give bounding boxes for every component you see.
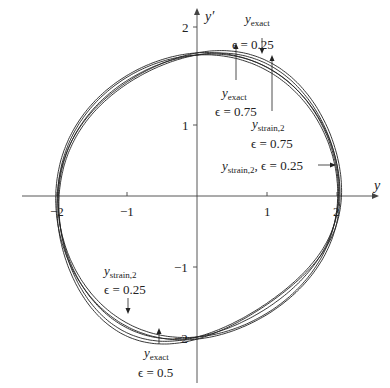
annotation-strain-025-left: ystrain,2	[104, 264, 137, 277]
annotation-arrows	[126, 38, 337, 344]
x-tick-label-1: 1	[264, 205, 271, 218]
x-axis-arrow-icon	[372, 193, 379, 199]
limit-cycle-curve	[58, 54, 338, 339]
annotation-strain-025-left-eps: ϵ = 0.25	[104, 283, 146, 296]
limit-cycle-curve	[59, 53, 339, 341]
x-tick-label-m1: −1	[120, 205, 134, 218]
x-axis-label: y	[374, 179, 380, 193]
arrow-head-icon	[126, 308, 131, 314]
annotation-strain-075: ystrain,2	[252, 117, 285, 130]
limit-cycle-curves	[56, 51, 342, 344]
y-axis-arrow-icon	[194, 8, 200, 15]
limit-cycle-curve	[57, 51, 342, 344]
annotation-exact-075-eps: ϵ = 0.75	[215, 105, 257, 118]
axes	[22, 8, 379, 383]
y-axis-label: y′	[205, 10, 214, 24]
arrow-head-icon	[157, 328, 162, 334]
y-tick-label-1: 1	[182, 119, 189, 132]
annotation-exact-025-eps: ϵ = 0.25	[232, 38, 274, 51]
x-tick-label-2: 2	[333, 205, 340, 218]
annotation-exact-05: yexact	[144, 346, 169, 359]
y-tick-label-m1: −1	[174, 261, 188, 274]
annotation-strain-075-eps: ϵ = 0.75	[251, 137, 293, 150]
annotation-strain-025-right: ystrain,2, ϵ = 0.25	[222, 159, 303, 172]
y-tick-label-m2: −2	[174, 332, 188, 345]
annotation-exact-025: yexact	[245, 12, 270, 25]
phase-plane-plot	[0, 0, 390, 388]
arrow-head-icon	[270, 55, 275, 61]
x-tick-label-m2: −2	[50, 205, 64, 218]
y-tick-label-2: 2	[182, 21, 189, 34]
annotation-exact-075: yexact	[222, 86, 247, 99]
annotation-exact-05-eps: ϵ = 0.5	[138, 366, 173, 379]
